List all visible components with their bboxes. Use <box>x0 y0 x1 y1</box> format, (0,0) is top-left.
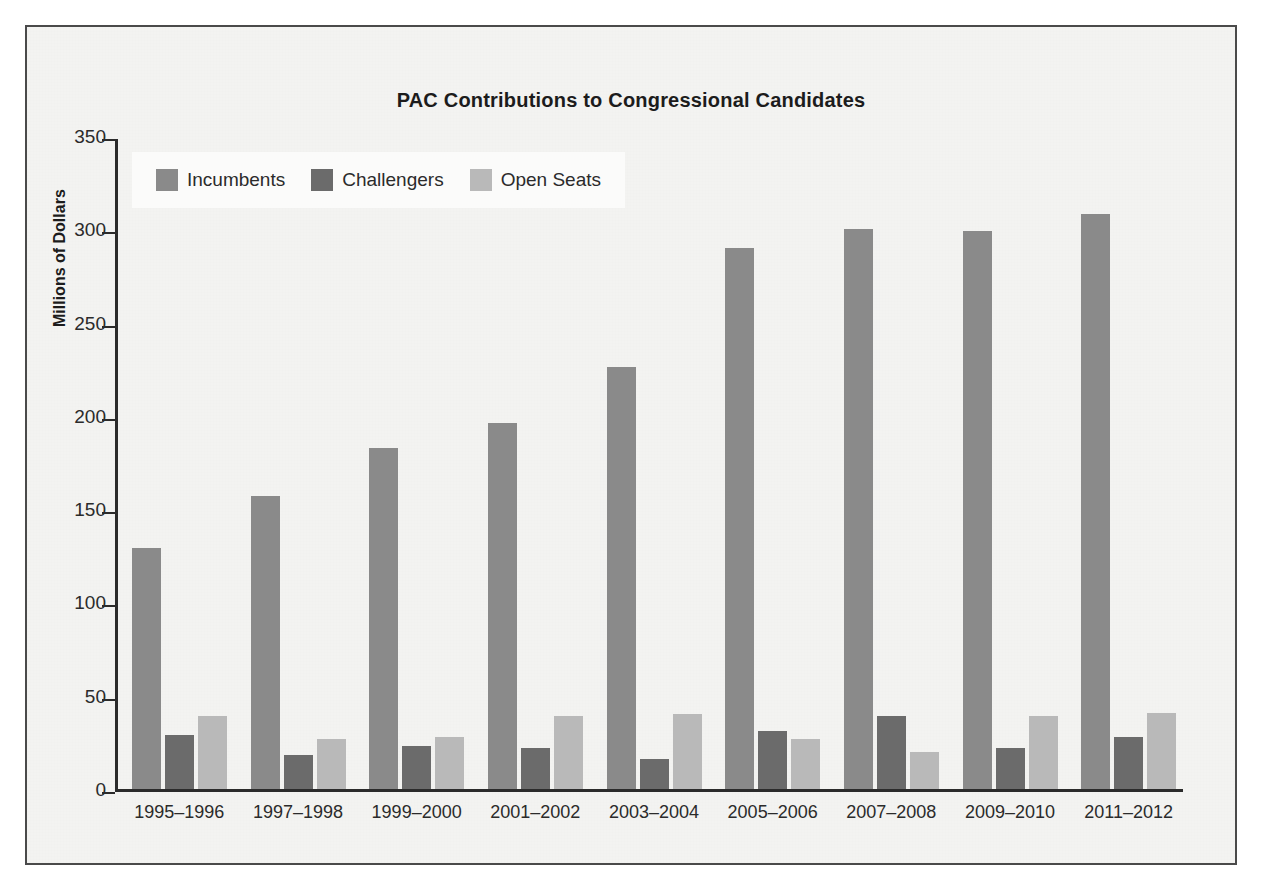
y-tick-label: 100 <box>74 592 106 614</box>
bar-incumbents[interactable] <box>488 423 517 789</box>
x-tick-label: 2005–2006 <box>728 802 818 823</box>
x-tick-label: 2007–2008 <box>846 802 936 823</box>
bar-incumbents[interactable] <box>963 231 992 789</box>
x-tick-label: 2011–2012 <box>1084 802 1173 823</box>
bar-challengers[interactable] <box>402 746 431 789</box>
bar-open-seats[interactable] <box>1029 716 1058 789</box>
bar-open-seats[interactable] <box>554 716 583 789</box>
bar-incumbents[interactable] <box>132 548 161 789</box>
bar-open-seats[interactable] <box>435 737 464 789</box>
bar-group <box>725 139 820 789</box>
figure-frame: PAC Contributions to Congressional Candi… <box>25 25 1237 865</box>
bar-group <box>488 139 583 789</box>
bar-open-seats[interactable] <box>673 714 702 789</box>
bar-group <box>1081 139 1176 789</box>
bar-incumbents[interactable] <box>369 448 398 789</box>
bar-open-seats[interactable] <box>910 752 939 789</box>
bar-challengers[interactable] <box>284 755 313 789</box>
x-tick-label: 2003–2004 <box>609 802 699 823</box>
bar-open-seats[interactable] <box>1147 713 1176 789</box>
x-axis-labels: 1995–19961997–19981999–20002001–20022003… <box>118 792 1183 832</box>
bar-challengers[interactable] <box>1114 737 1143 789</box>
bar-challengers[interactable] <box>996 748 1025 789</box>
bar-challengers[interactable] <box>640 759 669 789</box>
bar-group <box>607 139 702 789</box>
bar-group <box>369 139 464 789</box>
y-axis-title: Millions of Dollars <box>51 189 69 327</box>
bar-challengers[interactable] <box>165 735 194 789</box>
plot-region: 050100150200250300350 1995–19961997–1998… <box>115 139 1183 792</box>
bar-group <box>132 139 227 789</box>
x-tick-label: 2001–2002 <box>490 802 580 823</box>
bar-group <box>251 139 346 789</box>
y-tick-label: 150 <box>74 499 106 521</box>
y-tick-label: 350 <box>74 126 106 148</box>
x-tick-label: 2009–2010 <box>965 802 1055 823</box>
bar-open-seats[interactable] <box>198 716 227 789</box>
chart-page: PAC Contributions to Congressional Candi… <box>0 0 1262 890</box>
y-tick-label: 0 <box>95 779 106 801</box>
bar-incumbents[interactable] <box>1081 214 1110 789</box>
y-tick-label: 300 <box>74 219 106 241</box>
bar-challengers[interactable] <box>521 748 550 789</box>
bar-challengers[interactable] <box>758 731 787 789</box>
x-tick-label: 1995–1996 <box>134 802 224 823</box>
bar-series-container <box>118 139 1183 789</box>
bar-incumbents[interactable] <box>607 367 636 789</box>
bar-incumbents[interactable] <box>251 496 280 789</box>
y-tick-label: 50 <box>85 686 106 708</box>
bar-incumbents[interactable] <box>725 248 754 789</box>
y-tick-label: 250 <box>74 313 106 335</box>
bar-challengers[interactable] <box>877 716 906 789</box>
bar-open-seats[interactable] <box>317 739 346 789</box>
bar-open-seats[interactable] <box>791 739 820 789</box>
y-tick-label: 200 <box>74 406 106 428</box>
x-tick-label: 1999–2000 <box>372 802 462 823</box>
bar-group <box>963 139 1058 789</box>
x-tick-label: 1997–1998 <box>253 802 343 823</box>
chart-title: PAC Contributions to Congressional Candi… <box>27 89 1235 112</box>
chart-area: PAC Contributions to Congressional Candi… <box>27 27 1235 863</box>
bar-group <box>844 139 939 789</box>
bar-incumbents[interactable] <box>844 229 873 789</box>
